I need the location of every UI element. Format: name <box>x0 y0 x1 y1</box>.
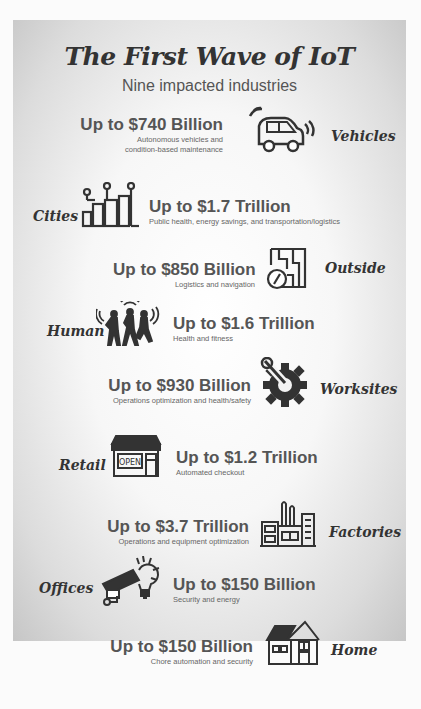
house-icon <box>265 620 321 668</box>
page-subtitle: Nine impacted industries <box>13 77 406 95</box>
description: Security and energy <box>173 595 316 605</box>
page-title: The First Wave of IoT <box>13 42 406 71</box>
industry-label-outside: Outside <box>325 260 386 276</box>
amount: Up to $1.6 Trillion <box>173 314 315 334</box>
wrench-gear-icon <box>259 357 311 407</box>
map-compass-icon <box>265 245 311 291</box>
camera-lightbulb-icon <box>99 556 163 608</box>
industry-label-vehicles: Vehicles <box>331 128 396 144</box>
description: Public health, energy savings, and trans… <box>149 217 340 227</box>
description: Health and fitness <box>173 334 315 344</box>
industry-home: Up to $150 Billion Chore automation and … <box>103 637 253 667</box>
industry-label-home: Home <box>331 642 377 658</box>
amount: Up to $150 Billion <box>103 637 253 657</box>
industry-label-cities: Cities <box>33 208 78 224</box>
description: condition-based maintenance <box>73 145 223 155</box>
industry-outside: Up to $850 Billion Logistics and navigat… <box>113 260 255 290</box>
amount: Up to $930 Billion <box>83 376 251 396</box>
amount: Up to $1.7 Trillion <box>149 197 340 217</box>
industry-label-retail: Retail <box>59 457 106 473</box>
factory-icon <box>260 498 316 548</box>
industry-vehicles: Up to $740 Billion Autonomous vehicles a… <box>73 115 223 155</box>
infographic-panel: The First Wave of IoT Nine impacted indu… <box>13 20 406 641</box>
amount: Up to $150 Billion <box>173 575 316 595</box>
industry-retail: Up to $1.2 Trillion Automated checkout <box>176 448 318 478</box>
description: Operations optimization and health/safet… <box>83 396 251 406</box>
industry-worksites: Up to $930 Billion Operations optimizati… <box>83 376 251 406</box>
industry-offices: Up to $150 Billion Security and energy <box>173 575 316 605</box>
description: Automated checkout <box>176 468 318 478</box>
city-icon <box>81 182 143 228</box>
car-icon <box>243 106 315 158</box>
description: Operations and equipment optimization <box>81 537 249 547</box>
amount: Up to $3.7 Trillion <box>81 517 249 537</box>
amount: Up to $1.2 Trillion <box>176 448 318 468</box>
industry-label-offices: Offices <box>39 580 93 596</box>
industry-human: Up to $1.6 Trillion Health and fitness <box>173 314 315 344</box>
open-sign: OPEN <box>119 458 141 467</box>
industry-factories: Up to $3.7 Trillion Operations and equip… <box>81 517 249 547</box>
amount: Up to $850 Billion <box>113 260 255 280</box>
runners-icon <box>96 301 162 347</box>
amount: Up to $740 Billion <box>73 115 223 135</box>
industry-cities: Up to $1.7 Trillion Public health, energ… <box>149 197 340 227</box>
description: Chore automation and security <box>103 657 253 667</box>
industry-label-factories: Factories <box>329 524 401 540</box>
description: Logistics and navigation <box>113 280 255 290</box>
industry-label-worksites: Worksites <box>320 381 397 397</box>
description: Autonomous vehicles and <box>73 135 223 145</box>
storefront-icon: OPEN <box>108 434 164 478</box>
